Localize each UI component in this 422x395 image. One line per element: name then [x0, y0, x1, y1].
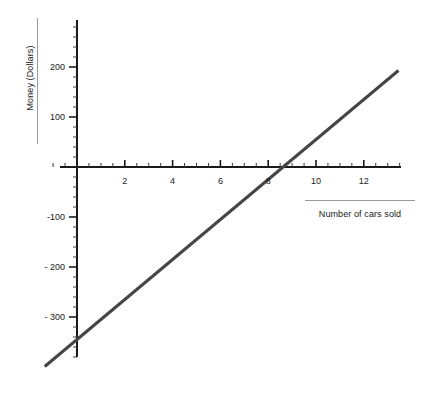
y-tick-label: -100 [19, 212, 65, 222]
chart-plot-area [0, 0, 422, 395]
x-tick-label: 8 [266, 176, 271, 186]
y-axis-major-ticks [69, 67, 77, 317]
x-axis-title-rule [305, 200, 415, 201]
y-axis-title-group: Money (Dollars) [22, 18, 38, 144]
x-axis-title-group: Number of cars sold [305, 200, 415, 228]
x-axis-title: Number of cars sold [305, 209, 415, 219]
x-tick-label: 4 [170, 176, 175, 186]
x-tick-label: 2 [122, 176, 127, 186]
y-tick-label: - 300 [19, 312, 65, 322]
y-tick-label: 200 [19, 62, 65, 72]
x-tick-label: 6 [218, 176, 223, 186]
x-tick-label: 10 [311, 176, 321, 186]
y-tick-label: 100 [19, 112, 65, 122]
y-axis-title-rule [37, 18, 38, 144]
y-tick-label: - 200 [19, 262, 65, 272]
x-tick-label: 12 [359, 176, 369, 186]
chart-container: Money (Dollars) Number of cars sold 2468… [0, 0, 422, 395]
